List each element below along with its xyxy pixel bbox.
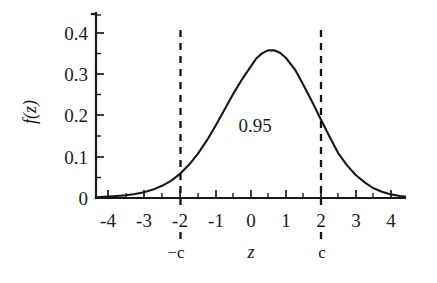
normal-distribution-chart: 0 0.1 0.2 0.3 0.4 -4 -3 -2 -1 0 1 2 3 4 … <box>0 0 437 283</box>
y-tick-label-0.3: 0.3 <box>64 64 88 85</box>
x-tick-label--4: -4 <box>100 210 116 231</box>
chart-canvas: 0 0.1 0.2 0.3 0.4 -4 -3 -2 -1 0 1 2 3 4 … <box>0 0 437 283</box>
x-tick-label--1: -1 <box>208 210 224 231</box>
y-tick-label-0.1: 0.1 <box>64 147 88 168</box>
x-tick-label-4: 4 <box>386 210 396 231</box>
y-tick-label-0.4: 0.4 <box>64 23 88 44</box>
x-tick-label-3: 3 <box>351 210 361 231</box>
x-tick-label-0: 0 <box>246 210 256 231</box>
critical-value-upper-label: c <box>318 243 326 262</box>
x-tick-label-1: 1 <box>281 210 291 231</box>
area-probability-label: 0.95 <box>238 115 271 136</box>
x-axis-label: z <box>246 242 254 262</box>
y-tick-label-0: 0 <box>79 188 89 209</box>
y-tick-labels: 0 0.1 0.2 0.3 0.4 <box>64 23 88 209</box>
y-tick-label-0.2: 0.2 <box>64 105 88 126</box>
x-tick-label--2: -2 <box>172 210 188 231</box>
y-axis-ticks <box>96 15 104 198</box>
x-tick-label-2: 2 <box>316 210 326 231</box>
critical-value-lower-label: −c <box>167 243 185 262</box>
x-tick-labels: -4 -3 -2 -1 0 1 2 3 4 <box>100 210 396 231</box>
y-axis-label: f(z) <box>20 100 41 124</box>
x-tick-label--3: -3 <box>136 210 152 231</box>
axes-group <box>92 13 405 198</box>
